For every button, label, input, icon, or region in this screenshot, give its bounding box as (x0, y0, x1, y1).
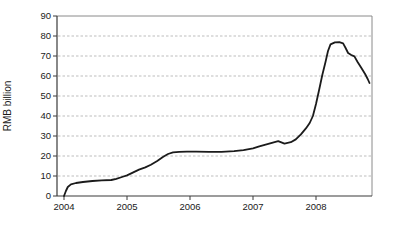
x-tick-label: 2008 (305, 201, 326, 212)
x-tick-label: 2006 (179, 201, 200, 212)
y-axis-label: RMB billion (2, 81, 13, 132)
x-tick-label: 2007 (242, 201, 263, 212)
y-tick-label: 40 (40, 110, 51, 121)
y-tick-label: 70 (40, 50, 51, 61)
x-tick-label: 2005 (116, 201, 137, 212)
y-tick-label: 80 (40, 30, 51, 41)
y-tick-label: 50 (40, 90, 51, 101)
y-tick-label: 30 (40, 130, 51, 141)
y-tick-label: 60 (40, 70, 51, 81)
y-tick-label: 20 (40, 150, 51, 161)
x-tick-label: 2004 (53, 201, 74, 212)
chart-layers: 010203040506070809020042005200620072008 (40, 10, 372, 212)
rmb-line-chart: 010203040506070809020042005200620072008 … (0, 0, 393, 225)
y-tick-label: 10 (40, 170, 51, 181)
data-line-rmb-billion (64, 42, 370, 196)
chart-canvas: 010203040506070809020042005200620072008 … (0, 0, 393, 225)
y-tick-label: 0 (46, 190, 51, 201)
y-tick-label: 90 (40, 10, 51, 21)
